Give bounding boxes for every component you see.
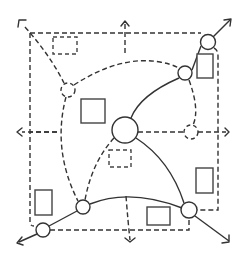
dashed-arc-right — [189, 80, 196, 125]
arrow-left-icon — [17, 128, 22, 136]
rect-center-below — [109, 150, 131, 167]
node-bottom-right[interactable] — [181, 202, 197, 218]
solid-center-to-br — [136, 138, 184, 203]
dashed-arc-top-a — [74, 61, 184, 85]
rect-square — [81, 99, 105, 123]
arrow-top-left-icon — [18, 20, 26, 27]
diagram-svg — [0, 0, 246, 264]
solid-bl-to-bml — [49, 211, 77, 226]
node-left-upper[interactable] — [61, 83, 75, 97]
rect-left-bottom — [35, 190, 52, 215]
solid-ur-to-center — [131, 78, 179, 118]
dashed-bottom-vertical — [126, 196, 130, 240]
rect-right-top — [197, 54, 213, 78]
rect-top-left — [53, 37, 77, 54]
dashed-arc-left — [61, 97, 78, 201]
solid-tr-to-arrow — [213, 20, 230, 37]
nodes — [36, 35, 216, 238]
node-bottom-left[interactable] — [36, 223, 50, 237]
dashed-diag-top-left — [25, 27, 64, 83]
rect-bottom — [147, 207, 170, 225]
diagram-canvas — [0, 0, 246, 264]
dashed-center-to-bottom — [85, 138, 114, 200]
node-bottom-mid-left[interactable] — [76, 200, 90, 214]
node-center[interactable] — [112, 117, 138, 143]
node-upper-right[interactable] — [178, 66, 192, 80]
frame-left-edge — [30, 33, 34, 226]
node-right-mid[interactable] — [184, 125, 198, 139]
rect-right-bottom — [196, 168, 213, 193]
solid-br-to-arrow — [195, 216, 229, 241]
node-top-right[interactable] — [201, 35, 216, 50]
